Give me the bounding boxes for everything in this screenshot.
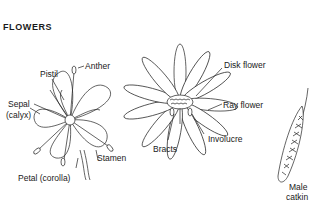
label-bracts: Bracts	[153, 144, 177, 154]
label-sepal: Sepal	[8, 99, 30, 109]
label-anther: Anther	[85, 61, 110, 71]
label-disk-flower: Disk flower	[224, 60, 266, 70]
label-calyx: (calyx)	[6, 110, 31, 120]
label-male: Male	[289, 182, 308, 192]
flowers-diagram: Pistil Anther Sepal (calyx) Stamen Petal…	[0, 0, 313, 222]
catkin-illustration	[278, 88, 308, 182]
label-ray-flower: Ray flower	[223, 100, 263, 110]
label-stamen: Stamen	[97, 153, 127, 163]
label-pistil: Pistil	[40, 69, 58, 79]
label-involucre: Involucre	[208, 134, 243, 144]
label-petal: Petal (corolla)	[18, 173, 71, 183]
label-catkin: catkin	[286, 192, 308, 202]
